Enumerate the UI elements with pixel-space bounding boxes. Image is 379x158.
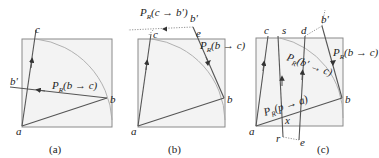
panel-b: a b c b' e PR(c → b') PR(b → c) (b): [128, 6, 246, 156]
feasible-square: [138, 39, 225, 127]
point-a-label: a: [131, 125, 137, 137]
point-bprime-label: b': [190, 12, 199, 24]
point-a-label: a: [16, 125, 22, 137]
dotted-projection-c-bprime: [128, 27, 193, 30]
point-e-label: e: [196, 27, 201, 39]
panel-a: a b c b' PR(b → c) (a): [10, 23, 116, 156]
point-b-label: b: [110, 93, 116, 105]
point-c-label: c: [264, 24, 269, 36]
point-x-label: x: [284, 114, 290, 126]
caption-a: (a): [49, 143, 62, 156]
point-b-label: b: [345, 93, 351, 105]
point-s-label: s: [282, 24, 286, 36]
caption-c: (c): [317, 143, 330, 156]
point-b-label: b: [227, 93, 233, 105]
dotted-d-bprime: [305, 26, 322, 36]
point-bprime-label: b': [10, 75, 19, 87]
point-e-label: e: [300, 136, 305, 148]
projection-c-bprime-label: PR(c → b'): [139, 6, 188, 21]
point-a-label: a: [249, 125, 255, 137]
arrow-icon: [162, 27, 167, 32]
projection-b-c-label: PR(b → c): [332, 46, 379, 61]
figure-canvas: a b c b' PR(b → c) (a) a b c b' e PR(c →…: [0, 0, 379, 158]
dotted-r-e: [283, 137, 299, 140]
point-c-label: c: [35, 23, 40, 35]
caption-b: (b): [168, 143, 181, 156]
point-d-label: d: [301, 24, 307, 36]
point-bprime-label: b': [321, 13, 330, 25]
point-c-label: c: [153, 28, 158, 40]
arrow-icon: [302, 72, 303, 80]
point-r-label: r: [276, 132, 281, 144]
panel-c: a b c s d b' r e x PR(b → c) PR(b' → c) …: [249, 10, 379, 156]
